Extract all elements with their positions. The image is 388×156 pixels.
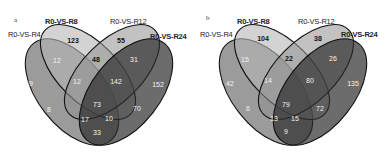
count-r4-r8: 12 [53, 57, 61, 64]
count-r8-r12-r24: 142 [110, 78, 122, 85]
set-label-r8: R0-VS-R8 [45, 17, 78, 26]
count-r4-r12: 33 [93, 129, 101, 136]
count-r8-only: 123 [67, 37, 79, 44]
panel-letter: b [206, 14, 210, 22]
count-r4-r8-r12: 14 [264, 77, 272, 84]
count-all-four: 73 [93, 101, 101, 108]
count-r8-r12-r24: 80 [306, 77, 314, 84]
count-r4-r12-r24: 13 [270, 115, 278, 122]
set-label-r12: R0-VS-R12 [298, 17, 335, 26]
count-r24-only: 135 [347, 80, 359, 87]
count-r12-only: 55 [117, 37, 125, 44]
count-all-four: 79 [282, 101, 290, 108]
count-r4-r12-r24: 17 [81, 116, 89, 123]
count-r8-only: 104 [257, 35, 269, 42]
count-r12-r24: 26 [329, 55, 337, 62]
venn-panel-a: a R0-VS-R4 R0-VS-R8 R0-VS-R12 R0-VS-R24 … [0, 0, 194, 156]
count-r24-only: 152 [152, 81, 164, 88]
count-r4-r8-r12: 12 [73, 78, 81, 85]
count-r4-r8-r24: 15 [291, 115, 299, 122]
count-r8-r24: 72 [316, 105, 324, 112]
set-label-r8: R0-VS-R8 [237, 17, 270, 26]
panel-letter: a [14, 16, 17, 24]
set-label-r4: R0-VS-R4 [200, 30, 233, 39]
count-r4-r24: 6 [246, 105, 250, 112]
set-label-r24: R0-VS-R24 [150, 32, 187, 41]
count-r4-r12: 9 [284, 128, 288, 135]
set-label-r24: R0-VS-R24 [341, 30, 378, 39]
set-label-r12: R0-VS-R12 [110, 17, 147, 26]
count-r12-r24: 31 [130, 56, 138, 63]
venn-diagram-b [194, 0, 388, 156]
count-r8-r12: 48 [92, 56, 100, 63]
count-r4-only: 69 [25, 80, 33, 87]
venn-panel-b: b R0-VS-R4 R0-VS-R8 R0-VS-R12 R0-VS-R24 … [194, 0, 388, 156]
count-r4-r8-r24: 10 [105, 115, 113, 122]
count-r4-r24: 8 [47, 106, 51, 113]
count-r4-r8: 15 [241, 56, 249, 63]
count-r8-r12: 22 [285, 55, 293, 62]
count-r4-only: 42 [226, 80, 234, 87]
set-label-r4: R0-VS-R4 [8, 30, 41, 39]
count-r12-only: 38 [314, 35, 322, 42]
count-r8-r24: 70 [133, 105, 141, 112]
